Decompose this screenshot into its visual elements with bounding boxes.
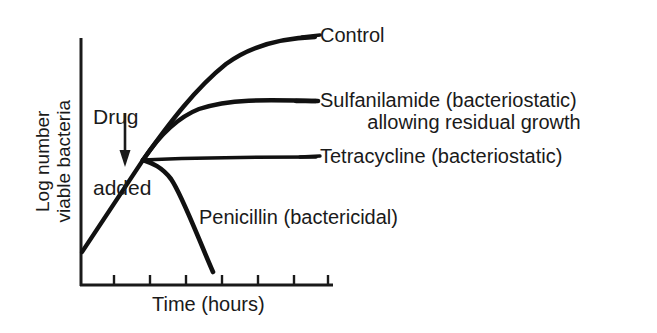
x-axis-title: Time (hours) [152, 293, 265, 315]
curve-label-tetracycline: Tetracycline (bacteriostatic) [320, 145, 562, 167]
curve-tetracycline [143, 157, 316, 160]
leader-control [302, 35, 320, 37]
curve-label-sulfanilamide-line2: allowing residual growth [320, 111, 650, 133]
y-axis-title: Log number viable bacteria [32, 51, 75, 271]
curve-label-penicillin: Penicillin (bactericidal) [199, 206, 398, 228]
drug-added-line1: Drug [93, 105, 151, 129]
figure-container: Log number viable bacteria Time (hours) … [0, 0, 657, 333]
curve-label-sulfanilamide-line1: Sulfanilamide (bacteriostatic) [320, 89, 650, 111]
curve-label-control: Control [320, 24, 384, 46]
y-axis-title-line1: Log number [32, 51, 53, 271]
drug-added-annotation: Drug added [93, 58, 151, 246]
curve-sulfanilamide [143, 100, 316, 160]
drug-added-line2: added [93, 176, 151, 200]
label-leader-lines [296, 35, 320, 157]
leader-tetracycline [300, 156, 320, 157]
curve-label-sulfanilamide: Sulfanilamide (bacteriostatic) allowing … [320, 89, 650, 134]
y-axis-title-line2: viable bacteria [53, 51, 74, 271]
